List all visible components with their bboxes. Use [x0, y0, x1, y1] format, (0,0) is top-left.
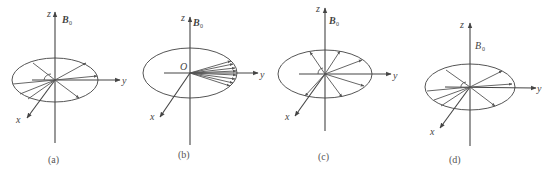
y-axis-label: y [121, 75, 127, 86]
panel-a: z B 0 y x (a) [12, 8, 127, 166]
field-label: B [61, 14, 69, 25]
origin-label: z [180, 12, 185, 23]
field-subscript: 0 [200, 23, 203, 29]
angle-arc [318, 68, 323, 74]
z-axis-label: z [46, 8, 51, 19]
origin-label: O [180, 61, 187, 72]
panel-d: z B 0 y x (d) [425, 19, 542, 166]
x-axis-label: x [429, 126, 435, 137]
x-axis-arrow [295, 74, 325, 116]
field-label: B [328, 15, 336, 26]
z-axis-label: z [315, 3, 320, 14]
z-axis-label: z [459, 19, 464, 30]
field-label: B [192, 17, 200, 28]
x-axis-arrow [160, 73, 190, 117]
x-axis-arrow [440, 87, 470, 128]
x-axis-label: x [284, 111, 290, 122]
y-axis-label: y [392, 70, 398, 81]
panel-caption: (c) [318, 151, 329, 163]
y-axis-label: y [536, 83, 542, 94]
field-subscript: 0 [69, 20, 72, 26]
figure-canvas: z B 0 y x (a) z B 0 O y x (b) [0, 0, 544, 171]
angle-arc [44, 74, 51, 80]
panel-caption: (a) [48, 154, 59, 166]
panel-c: z B 0 y x (c) [278, 3, 398, 163]
x-axis-label: x [149, 111, 155, 122]
field-label: B [475, 40, 481, 51]
field-subscript: 0 [336, 21, 339, 27]
panel-caption: (b) [178, 149, 190, 161]
x-axis-label: x [15, 114, 21, 125]
y-axis-label: y [259, 69, 265, 80]
field-subscript: 0 [482, 46, 485, 52]
panel-caption: (d) [449, 154, 461, 166]
panel-b: z B 0 O y x (b) [143, 12, 265, 161]
